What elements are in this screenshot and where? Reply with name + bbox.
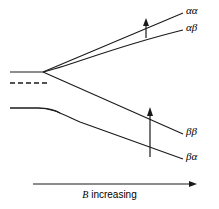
level-label-alpha-alpha: αα [186,5,198,16]
branch-beta-beta [43,72,183,134]
b-axis-caption: B increasing [0,190,219,200]
b-axis-arrow [33,181,197,187]
branch-alpha-beta [43,30,183,72]
zero-field-lines [10,72,60,113]
level-label-beta-beta: ββ [186,126,197,137]
b-axis-caption-text: increasing [88,189,136,200]
branch-alpha-alpha [43,13,183,72]
lower-transition-arrow-head [147,107,153,116]
level-branches [10,13,183,159]
level-label-alpha-beta: αβ [186,22,197,33]
upper-transition-arrow-head [143,18,149,26]
b-axis-arrow-head [189,181,197,187]
branch-beta-alpha [10,108,183,159]
energy-level-diagram: αα αβ ββ βα B increasing [0,0,219,209]
level-label-beta-alpha: βα [186,151,197,162]
